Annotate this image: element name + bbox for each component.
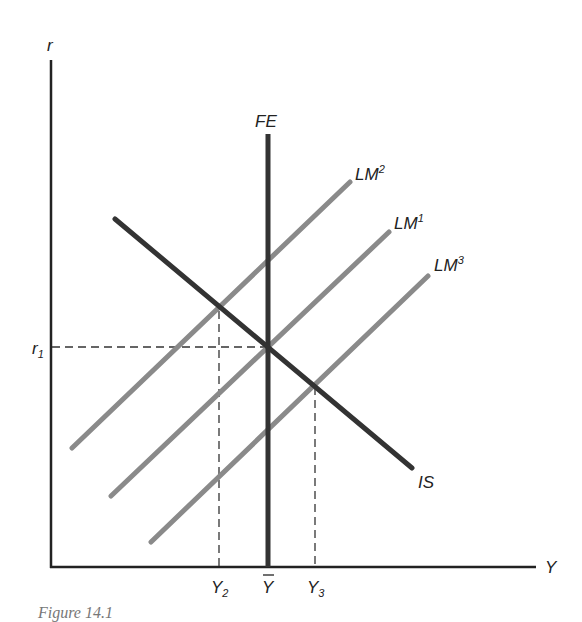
y2-tick-label: Y2 — [211, 578, 228, 599]
fe-label: FE — [255, 112, 277, 131]
y3-tick-label: Y3 — [307, 578, 325, 599]
y-axis-label: Y — [545, 558, 558, 577]
is-label: IS — [418, 473, 435, 492]
lm1-curve — [111, 232, 389, 496]
lm2-label: LM2 — [355, 163, 385, 184]
lm1-label: LM1 — [394, 212, 424, 233]
ybar-tick-label: Y — [262, 578, 275, 597]
lm2-curve — [72, 182, 350, 448]
figure-caption: Figure 14.1 — [38, 604, 113, 622]
r-axis-label: r — [47, 36, 54, 55]
lm3-curve — [151, 276, 428, 542]
lm3-label: LM3 — [434, 254, 465, 275]
r1-tick-label: r1 — [32, 339, 44, 360]
